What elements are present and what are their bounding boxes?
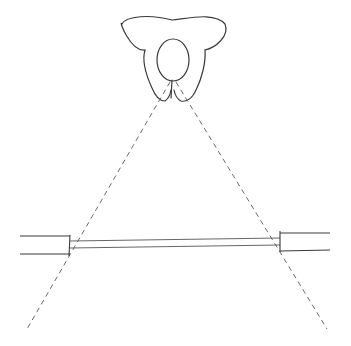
head-outline — [157, 39, 189, 81]
shoulders-outline — [121, 17, 226, 51]
person-figure — [121, 17, 226, 102]
right-arm-outline — [174, 50, 205, 101]
sight-lines — [27, 82, 327, 329]
wall-right — [280, 231, 330, 252]
hands-center-line — [171, 80, 172, 98]
sight-line-right — [176, 82, 327, 329]
sight-line-left — [27, 82, 170, 329]
diagram-svg — [0, 0, 351, 346]
window-glass — [70, 238, 280, 248]
wall-left — [20, 235, 70, 256]
sketch-canvas — [0, 0, 351, 346]
